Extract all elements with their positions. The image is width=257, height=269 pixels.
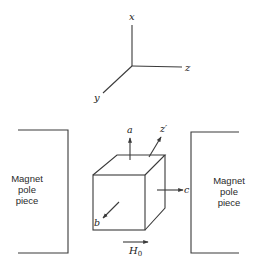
x-axis-label: x (129, 11, 135, 22)
left-pole-label-line1: Magnet (11, 173, 43, 184)
left-magnet-pole-piece: Magnet pole piece (11, 130, 68, 253)
h0-field-label: H0 (128, 245, 142, 258)
h0-subscript: 0 (138, 250, 142, 258)
left-pole-label-line2: pole (18, 184, 36, 195)
c-axis-label: c (184, 184, 190, 195)
crystal-cube (93, 155, 165, 230)
z-prime-axis-label: z′ (159, 123, 168, 134)
a-axis-label: a (127, 124, 133, 135)
z-axis-line (132, 66, 182, 67)
b-axis-arrow (103, 202, 119, 218)
lab-coordinate-axes: x z y (93, 11, 191, 103)
right-magnet-pole-piece: Magnet pole piece (191, 132, 245, 253)
right-pole-label-line1: Magnet (213, 175, 245, 186)
cube-side-face (145, 155, 165, 230)
magnet-crystal-diagram: x z y Magnet pole piece Magnet pole piec… (0, 0, 257, 269)
y-axis-label: y (93, 92, 100, 103)
applied-field-h0: H0 (123, 242, 148, 258)
z-prime-axis-arrow (149, 137, 161, 157)
right-pole-label-line2: pole (220, 186, 238, 197)
y-axis-line (103, 66, 132, 93)
left-pole-label-line3: piece (16, 195, 39, 206)
h0-symbol: H (128, 245, 138, 256)
cube-top-face (93, 155, 165, 175)
z-axis-label: z (184, 62, 191, 73)
b-axis-label: b (94, 217, 100, 228)
right-pole-label-line3: piece (218, 197, 241, 208)
